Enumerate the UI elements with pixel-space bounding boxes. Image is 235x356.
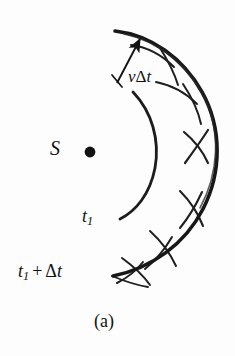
wavelet-arc-4b <box>180 192 202 228</box>
inner-wavefront-label-sub: 1 <box>87 214 93 228</box>
outer-wavefront-label-delta: Δ <box>45 261 57 281</box>
inner-wavefront-arc <box>120 92 156 219</box>
figure-caption: (a) <box>94 312 114 330</box>
source-label-text: S <box>50 137 60 159</box>
inner-wavefront-label: t1 <box>82 207 93 228</box>
source-label: S <box>50 138 60 158</box>
outer-wavefront-label-plus: + <box>29 261 45 281</box>
outer-wavefront-arc-shadow <box>124 34 216 208</box>
huygens-wavefront-figure: S t1 t1+Δt vΔt (a) <box>0 0 235 356</box>
outer-wavefront-label-dt: t <box>57 261 62 281</box>
separation-label-delta: Δ <box>136 67 147 86</box>
figure-drawing-canvas <box>0 0 235 356</box>
outer-wavefront-label: t1+Δt <box>18 262 62 283</box>
wavelet-arc-2b <box>183 84 201 124</box>
separation-label-v: v <box>128 67 136 86</box>
separation-distance-label: vΔt <box>128 68 151 85</box>
wavelet-arc-7 <box>112 276 148 287</box>
figure-caption-text: (a) <box>94 311 114 331</box>
wavelet-arc-2 <box>156 82 197 104</box>
wavelet-arc-1 <box>131 45 174 67</box>
source-point-dot <box>85 147 96 158</box>
separation-label-t: t <box>146 67 151 86</box>
